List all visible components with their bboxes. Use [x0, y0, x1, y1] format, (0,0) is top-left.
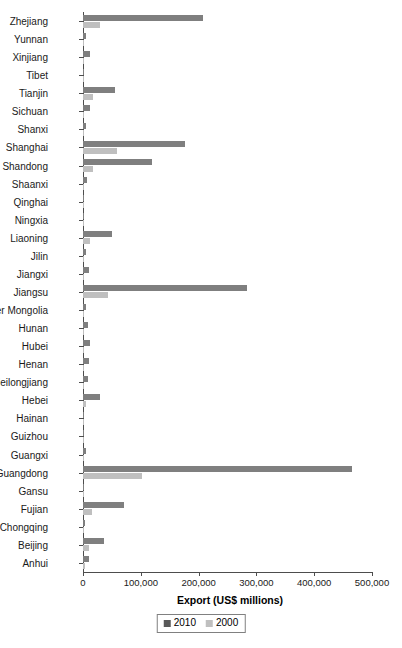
y-axis-tick [79, 418, 83, 419]
x-axis-tick-label: 400,000 [297, 577, 331, 588]
y-axis-label: Hunan [19, 323, 48, 334]
y-axis-tick [79, 75, 83, 76]
bar-row: Henan [83, 355, 372, 373]
y-axis-label: Sichuan [12, 106, 48, 117]
bar-2000 [83, 94, 93, 100]
bar-row: Chongqing [83, 518, 372, 536]
x-axis-tick-label: 500,000 [355, 577, 389, 588]
y-axis-tick [79, 491, 83, 492]
bar-2010 [83, 159, 152, 165]
bar-2010 [83, 484, 84, 490]
y-axis-label: Henan [19, 359, 48, 370]
bar-row: Guangxi [83, 446, 372, 464]
bar-row: Shandong [83, 157, 372, 175]
bar-2000 [83, 545, 89, 551]
bar-2000 [83, 491, 84, 497]
bar-2000 [83, 509, 92, 515]
y-axis-label: Guangxi [11, 449, 48, 460]
x-axis-tick [83, 572, 84, 576]
bar-2000 [83, 40, 84, 46]
x-axis-title: Export (US$ millions) [0, 594, 402, 606]
bar-2000 [83, 347, 84, 353]
y-axis-label: Yunnan [14, 34, 48, 45]
bar-row: Jiangxi [83, 265, 372, 283]
y-axis-tick [79, 129, 83, 130]
y-axis-tick [79, 147, 83, 148]
y-axis-label: Shanghai [6, 142, 48, 153]
y-axis-label: Xinjiang [12, 52, 48, 63]
bar-2000 [83, 166, 93, 172]
y-axis-tick [79, 509, 83, 510]
bar-2000 [83, 563, 85, 569]
bar-2000 [83, 473, 142, 479]
bar-2010 [83, 340, 90, 346]
y-axis-tick [79, 436, 83, 437]
bar-row: Tianjin [83, 84, 372, 102]
x-axis-tick [199, 572, 200, 576]
bar-row: Shaanxi [83, 175, 372, 193]
y-axis-label: Guizhou [11, 431, 48, 442]
bar-row: Shanghai [83, 138, 372, 156]
x-axis-tick [256, 572, 257, 576]
bar-2010 [83, 267, 89, 273]
bar-2010 [83, 538, 104, 544]
x-axis-tick [372, 572, 373, 576]
y-axis-tick [79, 21, 83, 22]
y-axis-label: Heilongjiang [0, 377, 48, 388]
y-axis-label: Anhui [22, 557, 48, 568]
chart-legend: 2010 2000 [157, 614, 246, 633]
y-axis-tick [79, 364, 83, 365]
bar-row: Liaoning [83, 229, 372, 247]
legend-swatch-2000-icon [206, 620, 213, 627]
y-axis-label: Shanxi [17, 124, 48, 135]
y-axis-label: Guangdong [0, 467, 48, 478]
bar-2010 [83, 322, 88, 328]
bar-2010 [83, 285, 247, 291]
y-axis-tick [79, 256, 83, 257]
x-axis-tick-label: 0 [80, 577, 85, 588]
bar-2000 [83, 256, 84, 262]
legend-item-2000: 2000 [206, 617, 238, 629]
y-axis-tick [79, 310, 83, 311]
y-axis-tick [79, 93, 83, 94]
bar-2000 [83, 274, 84, 280]
y-axis-label: Liaoning [10, 232, 48, 243]
export-bar-chart: ZhejiangYunnanXinjiangTibetTianjinSichua… [0, 0, 402, 648]
bar-2000 [83, 329, 84, 335]
x-axis-tick-label: 300,000 [239, 577, 273, 588]
bar-row: Yunnan [83, 30, 372, 48]
y-axis-tick [79, 382, 83, 383]
y-axis-tick [79, 274, 83, 275]
y-axis-tick [79, 455, 83, 456]
bar-2010 [83, 448, 86, 454]
y-axis-tick [79, 473, 83, 474]
bar-2010 [83, 123, 86, 129]
bar-2000 [83, 148, 117, 154]
bar-row: Hebei [83, 391, 372, 409]
y-axis-label: Beijing [18, 539, 48, 550]
bar-2010 [83, 105, 90, 111]
y-axis-tick [79, 400, 83, 401]
x-axis-tick [141, 572, 142, 576]
y-axis-label: Tianjin [19, 88, 48, 99]
bar-row: Hainan [83, 409, 372, 427]
y-axis-tick [79, 166, 83, 167]
bar-row: Heilongjiang [83, 373, 372, 391]
y-axis-tick [79, 238, 83, 239]
bar-2000 [83, 184, 84, 190]
y-axis-tick [79, 545, 83, 546]
bar-row: Xinjiang [83, 48, 372, 66]
bar-2000 [83, 311, 84, 317]
bar-2010 [83, 556, 89, 562]
y-axis-label: Hebei [22, 395, 48, 406]
y-axis-tick [79, 184, 83, 185]
bar-2000 [83, 365, 84, 371]
bar-row: Sichuan [83, 102, 372, 120]
bar-row: Hubei [83, 337, 372, 355]
bar-2010 [83, 502, 124, 508]
y-axis-label: Tibet [26, 70, 48, 81]
y-axis-tick [79, 328, 83, 329]
bar-row: Tibet [83, 66, 372, 84]
bar-2010 [83, 69, 84, 75]
plot-area: ZhejiangYunnanXinjiangTibetTianjinSichua… [83, 12, 372, 572]
